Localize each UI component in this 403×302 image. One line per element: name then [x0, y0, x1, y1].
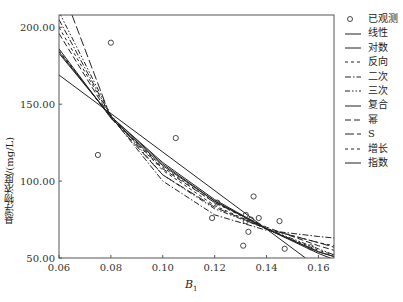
observed-point [277, 218, 282, 223]
legend-item: 指数 [344, 156, 398, 170]
x-axis-label-main: B [185, 278, 193, 291]
series-line-6 [59, 34, 334, 251]
line-swatch-icon [344, 158, 362, 168]
line-swatch-icon [344, 129, 362, 139]
x-tick-label: 0.08 [100, 262, 122, 273]
y-tick-label: 200.00 [20, 22, 55, 33]
legend-item: 反向 [344, 55, 398, 69]
legend-item: 线性 [344, 26, 398, 40]
observed-point [209, 215, 214, 220]
x-tick-label: 0.14 [255, 262, 277, 273]
line-swatch-icon [344, 57, 362, 67]
legend-label: 增长 [368, 142, 388, 156]
line-swatch-icon [344, 115, 362, 125]
y-tick-label: 150.00 [20, 99, 55, 110]
line-swatch-icon [344, 72, 362, 82]
legend-label: 对数 [368, 41, 388, 55]
x-tick-label: 0.16 [307, 262, 329, 273]
legend-item: 二次 [344, 70, 398, 84]
series-line-4 [59, 12, 334, 255]
legend-label: 已观测 [368, 12, 398, 26]
legend-label: 二次 [368, 70, 388, 84]
chart-plot: 0.060.080.100.120.140.1650.00100.00150.0… [0, 0, 403, 302]
legend-label: 线性 [368, 26, 388, 40]
legend-label: 指数 [368, 156, 388, 170]
legend-label: 反向 [368, 55, 388, 69]
legend-label: 复合 [368, 98, 388, 112]
legend-item: 已观测 [344, 12, 398, 26]
observed-point [251, 194, 256, 199]
legend: 已观测线性对数反向二次三次复合幂S增长指数 [344, 12, 398, 170]
legend-label: 幂 [368, 113, 378, 127]
series-line-2 [59, 27, 334, 245]
legend-item: 幂 [344, 113, 398, 127]
series-line-8 [59, 50, 334, 255]
y-axis-label: 悬浮物浓度/(mg/L) [2, 120, 26, 240]
plot-frame [59, 15, 334, 258]
legend-item: 三次 [344, 84, 398, 98]
line-swatch-icon [344, 101, 362, 111]
legend-label: 三次 [368, 84, 388, 98]
legend-label: S [368, 127, 375, 141]
series-line-7 [72, 15, 334, 247]
series-line-3 [59, 20, 334, 238]
series-line-5 [59, 49, 334, 257]
line-swatch-icon [344, 144, 362, 154]
observed-point [241, 243, 246, 248]
legend-item: 复合 [344, 98, 398, 112]
legend-item: 对数 [344, 41, 398, 55]
x-axis-label-sub: 1 [193, 285, 197, 293]
y-tick-label: 50.00 [26, 253, 55, 264]
line-swatch-icon [344, 29, 362, 39]
observed-point [256, 215, 261, 220]
x-axis-label: B1 [185, 278, 198, 293]
observed-point [246, 229, 251, 234]
legend-item: S [344, 127, 398, 141]
observed-point [282, 246, 287, 251]
line-swatch-icon [344, 43, 362, 53]
x-tick-label: 0.10 [152, 262, 174, 273]
observed-point [95, 152, 100, 157]
line-swatch-icon [344, 86, 362, 96]
observed-point [173, 135, 178, 140]
observed-point [108, 40, 113, 45]
legend-item: 增长 [344, 142, 398, 156]
circle-marker-icon [344, 14, 362, 24]
x-tick-label: 0.12 [204, 262, 226, 273]
